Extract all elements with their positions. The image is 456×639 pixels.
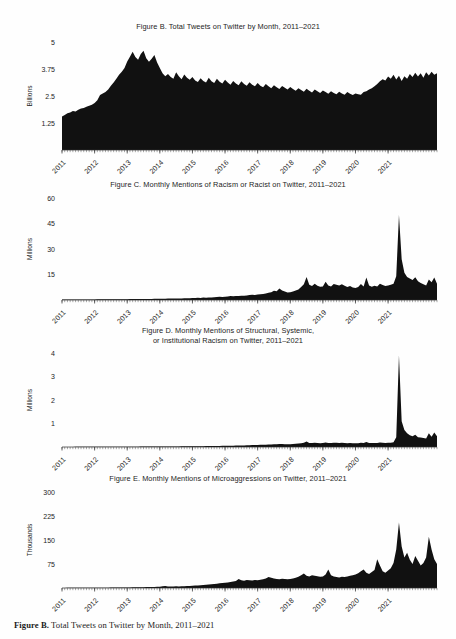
figure-c-title-line-1: Figure C. Monthly Mentions of Racism or … [110, 180, 346, 189]
figure-e-xtick-label: 2012 [82, 596, 100, 614]
figure-d-xtick-label: 2016 [213, 455, 231, 473]
figure-d-area-series [62, 355, 437, 447]
figure-c-chart: 15304560Millions201120122013201420152016… [0, 192, 456, 327]
figure-b-block: Figure B. Total Tweets on Twitter by Mon… [0, 22, 456, 179]
figure-d-xtick-label: 2021 [376, 455, 394, 473]
figure-b-ytick-label: 1.25 [41, 119, 55, 126]
figure-c-xtick-label: 2012 [82, 308, 100, 326]
figure-b-xtick-label: 2013 [115, 158, 133, 176]
figure-c-xtick-label: 2019 [311, 308, 329, 326]
figure-c-area-series [62, 215, 437, 300]
figure-b-ytick-label: 5 [51, 38, 55, 45]
figure-d-xtick-label: 2011 [50, 455, 67, 472]
figure-e-ytick-label: 150 [43, 536, 55, 543]
figure-c-xtick-label: 2016 [213, 308, 231, 326]
figure-b-plot: 1.252.53.755Billions20112012201320142015… [0, 34, 456, 179]
figure-e-title: Figure E. Monthly Mentions of Microaggre… [0, 474, 456, 484]
figure-e-xtick-label: 2019 [311, 596, 329, 614]
figure-d-title: Figure D. Monthly Mentions of Structural… [0, 326, 456, 345]
figure-e-chart: 75150225300Thousands20112012201320142015… [0, 486, 456, 616]
figure-b-xtick-label: 2012 [82, 158, 100, 176]
figure-d-ytick-label: 2 [51, 397, 55, 404]
figure-e-ytick-label: 75 [47, 560, 55, 567]
figure-b-ytick-label: 3.75 [41, 65, 55, 72]
figure-d-ytick-label: 1 [51, 420, 55, 427]
caption-bold-prefix: Figure B. [14, 620, 49, 630]
figure-c-xtick-label: 2013 [115, 308, 133, 326]
caption-text: Total Tweets on Twitter by Month, 2011–2… [49, 620, 214, 630]
figure-c-ytick-label: 30 [47, 245, 55, 252]
figure-d-xtick-label: 2013 [115, 455, 133, 473]
figure-e-xtick-label: 2021 [376, 596, 394, 614]
figure-e-xtick-label: 2015 [180, 596, 198, 614]
figure-c-xtick-label: 2011 [50, 308, 67, 325]
figure-d-xtick-label: 2019 [311, 455, 329, 473]
figure-e-ytick-label: 300 [43, 488, 55, 495]
figure-b-title: Figure B. Total Tweets on Twitter by Mon… [0, 22, 456, 32]
figure-d-xtick-label: 2015 [180, 455, 198, 473]
figure-b-area-series [62, 50, 437, 149]
figure-d-ytick-label: 4 [51, 350, 55, 357]
figure-e-xtick-label: 2016 [213, 596, 231, 614]
figure-e-xtick-label: 2020 [343, 596, 361, 614]
figure-b-xtick-label: 2016 [213, 158, 231, 176]
figure-c-xtick-label: 2020 [343, 308, 361, 326]
figure-b-xtick-label: 2021 [376, 158, 394, 176]
figure-d-xtick-label: 2018 [278, 455, 296, 473]
figure-c-xtick-label: 2021 [376, 308, 394, 326]
figure-e-xtick-label: 2018 [278, 596, 296, 614]
figure-b-xtick-label: 2014 [148, 158, 166, 176]
figure-b-title-line-1: Figure B. Total Tweets on Twitter by Mon… [136, 22, 320, 31]
figure-d-plot: 1234Millions2011201220132014201520162017… [0, 347, 456, 475]
figure-c-title: Figure C. Monthly Mentions of Racism or … [0, 180, 456, 190]
figure-caption: Figure B. Total Tweets on Twitter by Mon… [14, 620, 214, 630]
figure-c-plot: 15304560Millions201120122013201420152016… [0, 192, 456, 327]
figure-e-y-axis-label: Thousands [26, 522, 33, 555]
figure-d-block: Figure D. Monthly Mentions of Structural… [0, 326, 456, 475]
figure-b-xtick-label: 2020 [343, 158, 361, 176]
figure-e-ytick-label: 225 [43, 512, 55, 519]
figure-b-xtick-label: 2017 [245, 158, 263, 176]
figure-b-chart: 1.252.53.755Billions20112012201320142015… [0, 34, 456, 179]
figure-c-ytick-label: 15 [47, 271, 55, 278]
figure-d-xtick-label: 2017 [245, 455, 263, 473]
figure-b-xtick-label: 2019 [311, 158, 329, 176]
figure-e-block: Figure E. Monthly Mentions of Microaggre… [0, 474, 456, 616]
figure-e-area-series [62, 522, 437, 588]
figure-e-title-line-1: Figure E. Monthly Mentions of Microaggre… [109, 474, 346, 483]
figure-d-xtick-label: 2020 [343, 455, 361, 473]
figure-e-xtick-label: 2017 [245, 596, 263, 614]
figure-c-y-axis-label: Millions [26, 237, 33, 260]
figure-c-xtick-label: 2017 [245, 308, 263, 326]
figure-d-title-line-1: Figure D. Monthly Mentions of Structural… [142, 326, 314, 335]
figure-b-y-axis-label: Billions [26, 84, 33, 106]
figure-e-xtick-label: 2011 [50, 596, 67, 613]
figure-c-block: Figure C. Monthly Mentions of Racism or … [0, 180, 456, 327]
figure-e-xtick-label: 2014 [148, 596, 166, 614]
figure-b-xtick-label: 2015 [180, 158, 198, 176]
figure-c-ytick-label: 60 [47, 194, 55, 201]
figure-c-ytick-label: 45 [47, 220, 55, 227]
figure-e-xtick-label: 2013 [115, 596, 133, 614]
figure-d-y-axis-label: Millions [26, 388, 33, 411]
figure-page: Figure B. Total Tweets on Twitter by Mon… [0, 0, 456, 639]
figure-c-xtick-label: 2018 [278, 308, 296, 326]
figure-c-xtick-label: 2015 [180, 308, 198, 326]
figure-b-ytick-label: 2.5 [45, 92, 55, 99]
figure-d-xtick-label: 2014 [148, 455, 166, 473]
figure-c-xtick-label: 2014 [148, 308, 166, 326]
figure-e-plot: 75150225300Thousands20112012201320142015… [0, 486, 456, 616]
figure-d-ytick-label: 3 [51, 373, 55, 380]
figure-b-xtick-label: 2011 [50, 158, 67, 175]
figure-b-xtick-label: 2018 [278, 158, 296, 176]
figure-d-chart: 1234Millions2011201220132014201520162017… [0, 347, 456, 475]
figure-d-title-line-2: or Institutional Racism on Twitter, 2011… [40, 336, 416, 346]
figure-d-xtick-label: 2012 [82, 455, 100, 473]
